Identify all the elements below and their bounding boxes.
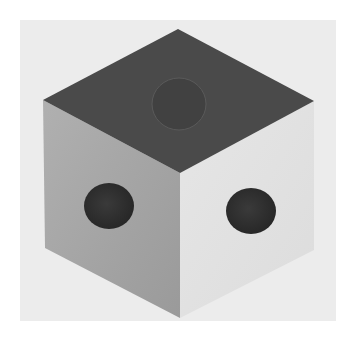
top-pip (152, 78, 206, 130)
cube-illustration (0, 0, 355, 343)
left-pip (84, 183, 134, 229)
right-pip (226, 188, 276, 234)
